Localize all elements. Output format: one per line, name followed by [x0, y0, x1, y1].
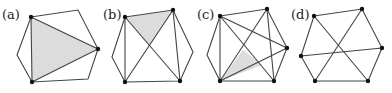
- panel-b: (b): [103, 7, 193, 84]
- vertex-dot: [360, 7, 364, 11]
- chord-line: [220, 16, 287, 48]
- hexagon-triangulation-figure: (a) (b) (c) (d): [0, 0, 392, 93]
- vertex-dot: [299, 54, 303, 58]
- vertex-dot: [96, 47, 100, 51]
- chord-line: [314, 16, 368, 81]
- vertex-dot: [312, 14, 316, 18]
- panel-c: (c): [197, 7, 289, 83]
- panel-d: (d): [291, 7, 384, 83]
- vertex-dot: [218, 14, 222, 18]
- vertex-dot: [285, 46, 289, 50]
- panel-label: (d): [291, 7, 309, 22]
- shaded-triangle: [31, 17, 98, 82]
- panel-label: (b): [103, 7, 121, 22]
- chord-line: [173, 10, 180, 81]
- panel-label: (a): [2, 7, 20, 22]
- panel-label: (c): [197, 7, 214, 22]
- vertex-dot: [29, 15, 33, 19]
- vertex-dot: [171, 8, 175, 12]
- chord-line: [315, 9, 362, 81]
- vertex-dot: [272, 79, 276, 83]
- hexagon-outline: [301, 9, 382, 81]
- vertex-dot: [123, 15, 127, 19]
- vertex-dot: [30, 80, 34, 84]
- panel-a: (a): [2, 7, 100, 84]
- vertex-dot: [123, 80, 127, 84]
- vertex-dot: [178, 79, 182, 83]
- vertex-dot: [366, 79, 370, 83]
- vertex-dot: [218, 79, 222, 83]
- vertex-dot: [380, 46, 384, 50]
- shaded-triangle: [220, 50, 262, 81]
- chord-line: [220, 48, 287, 81]
- vertex-dot: [265, 7, 269, 11]
- vertex-dot: [313, 79, 317, 83]
